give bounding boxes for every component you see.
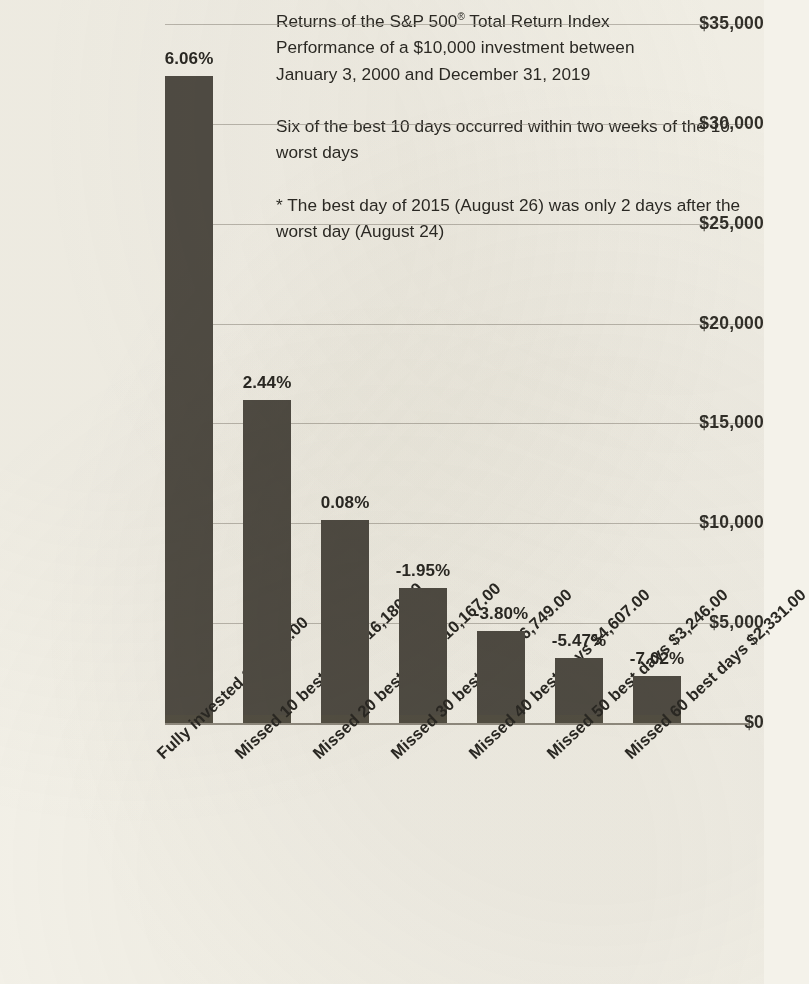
y-axis-tick-label: $30,000 [632,113,764,134]
bar-value-label: -7.02% [607,649,707,669]
y-axis-tick-label: $10,000 [632,512,764,533]
bar-value-label: 0.08% [295,493,395,513]
bar-value-label: 6.06% [139,49,239,69]
bar-value-label: -5.47% [529,631,629,651]
y-axis-tick-label: $15,000 [632,412,764,433]
bar-value-label: 2.44% [217,373,317,393]
bar[interactable] [321,520,369,723]
bar-value-label: -3.80% [451,604,551,624]
y-axis-tick-label: $20,000 [632,313,764,334]
y-axis-tick-label: $25,000 [632,213,764,234]
y-axis-tick-label: $35,000 [632,13,764,34]
bar-value-label: -1.95% [373,561,473,581]
bar[interactable] [165,76,213,723]
bar[interactable] [243,400,291,723]
